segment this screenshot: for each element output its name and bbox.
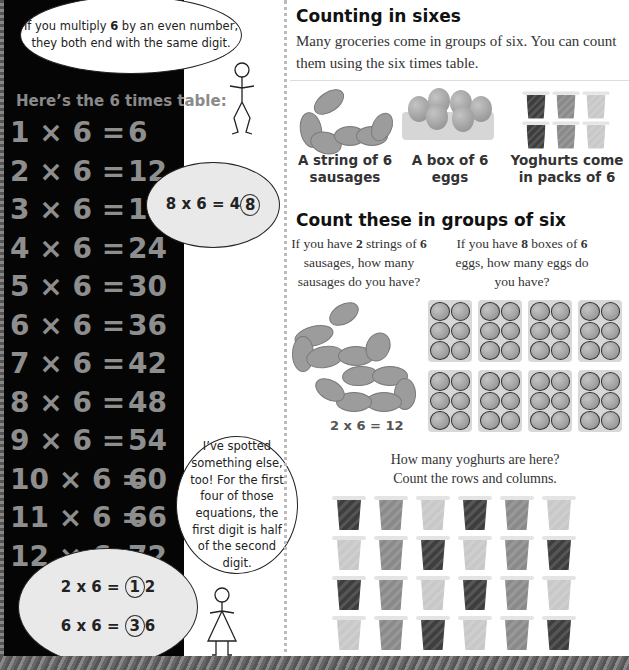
egg-icon xyxy=(601,322,621,341)
egg-icon xyxy=(530,302,550,321)
caption-sausages: A string of 6 sausages xyxy=(290,152,400,186)
times-table-title: Here’s the 6 times table: xyxy=(16,92,227,110)
yoghurt-icon xyxy=(419,536,447,572)
egg-icon xyxy=(430,372,450,391)
q-text: strings of xyxy=(363,236,420,251)
egg-icon xyxy=(580,392,600,411)
egg-icon xyxy=(451,302,471,321)
egg-icon xyxy=(601,302,621,321)
egg-icon xyxy=(501,372,521,391)
yoghurt-icon xyxy=(461,496,489,532)
egg-icon xyxy=(551,341,571,360)
egg-icon xyxy=(551,302,571,321)
egg-carton xyxy=(428,300,472,362)
example-eq: 8 x 6 = 4 xyxy=(166,194,240,216)
yoghurt-icon xyxy=(503,616,531,652)
egg-icon xyxy=(530,372,550,391)
egg-icon xyxy=(430,302,450,321)
times-table-row: 7 × 6 =42 xyxy=(10,347,182,383)
half-example-2: 6 x 6 = 36 xyxy=(61,615,155,638)
bubble-text-a: If you multiply xyxy=(24,19,110,33)
egg-icon xyxy=(530,392,550,411)
yoghurt-question-line1: How many yoghurts are here? xyxy=(330,450,620,469)
times-table-row: 1 × 6 =6 xyxy=(10,116,182,152)
times-table-row: 8 × 6 =48 xyxy=(10,386,182,422)
eq-text: 6 x 6 = xyxy=(61,617,125,635)
half-examples-bubble: 2 x 6 = 12 6 x 6 = 36 xyxy=(18,548,198,666)
egg-icon xyxy=(480,322,500,341)
question-eggs: If you have 8 boxes of 6 eggs, how many … xyxy=(452,234,592,291)
egg-icon xyxy=(580,322,600,341)
bubble-text-bold: 6 xyxy=(110,19,118,33)
egg-icon xyxy=(451,411,471,430)
yoghurt-icon xyxy=(545,616,573,652)
egg-icon xyxy=(580,302,600,321)
egg-icon xyxy=(501,322,521,341)
q-bold: 8 xyxy=(521,236,528,251)
speech-bubble-even-rule: If you multiply 6 by an even number, the… xyxy=(20,0,242,74)
egg-icon xyxy=(580,372,600,391)
row-rhs: 36 xyxy=(122,309,182,345)
yoghurt-icon xyxy=(335,616,363,652)
yoghurt-icon xyxy=(555,122,577,151)
yoghurt-icon xyxy=(585,92,607,121)
times-table-row: 4 × 6 =24 xyxy=(10,232,182,268)
times-table-row: 10 × 6 =60 xyxy=(10,463,182,499)
egg-icon xyxy=(451,341,471,360)
caption-yoghurts: Yoghurts come in packs of 6 xyxy=(505,152,629,186)
caption-eggs: A box of 6 eggs xyxy=(400,152,500,186)
yoghurt-icon xyxy=(461,576,489,612)
egg-carton xyxy=(478,370,522,432)
row-lhs: 7 × 6 = xyxy=(10,347,122,383)
yoghurt-icon xyxy=(377,536,405,572)
row-rhs: 66 xyxy=(122,501,182,537)
yoghurt-icon xyxy=(335,536,363,572)
heading-counting-in-sixes: Counting in sixes xyxy=(296,6,461,26)
egg-icon xyxy=(430,392,450,411)
yoghurt-icon xyxy=(545,496,573,532)
egg-icon xyxy=(480,372,500,391)
egg-icon xyxy=(451,372,471,391)
egg-icon xyxy=(580,411,600,430)
egg-carton xyxy=(578,370,622,432)
yoghurt-icon xyxy=(419,616,447,652)
egg-icon xyxy=(530,341,550,360)
speech-bubble-half-rule: I’ve spotted something else, too! For th… xyxy=(176,436,298,574)
yoghurt-icon xyxy=(335,496,363,532)
eq-text: 6 xyxy=(145,617,155,635)
yoghurt-icon xyxy=(503,496,531,532)
yoghurt-icon xyxy=(525,92,547,121)
example-bubble-8x6: 8 x 6 = 48 xyxy=(146,162,280,248)
yoghurt-icon xyxy=(461,536,489,572)
yoghurt-icon xyxy=(419,496,447,532)
egg-icon xyxy=(501,302,521,321)
yoghurt-icon xyxy=(545,576,573,612)
question-sausages: If you have 2 strings of 6 sausages, how… xyxy=(290,234,428,291)
row-rhs: 48 xyxy=(122,386,182,422)
times-table-row: 9 × 6 =54 xyxy=(10,424,182,460)
row-rhs: 30 xyxy=(122,270,182,306)
section-divider xyxy=(290,80,629,81)
row-lhs: 11 × 6 = xyxy=(10,501,122,537)
q-text: eggs, how many eggs do you have? xyxy=(455,255,588,289)
egg-icon xyxy=(451,392,471,411)
q-text: If you have xyxy=(291,236,356,251)
egg-icon xyxy=(430,411,450,430)
egg-icon xyxy=(601,341,621,360)
yoghurt-icon xyxy=(419,576,447,612)
egg-icon xyxy=(501,411,521,430)
yoghurt-icon xyxy=(585,122,607,151)
egg-carton xyxy=(578,300,622,362)
egg-icon xyxy=(551,411,571,430)
row-rhs: 42 xyxy=(122,347,182,383)
yoghurt-icon xyxy=(377,496,405,532)
row-lhs: 3 × 6 = xyxy=(10,193,122,229)
egg-icon xyxy=(580,341,600,360)
row-lhs: 8 × 6 = xyxy=(10,386,122,422)
yoghurt-icon xyxy=(545,536,573,572)
row-lhs: 1 × 6 = xyxy=(10,116,122,152)
yoghurt-icon xyxy=(503,536,531,572)
intro-text: Many groceries come in groups of six. Yo… xyxy=(296,30,626,74)
egg-icon xyxy=(501,341,521,360)
yoghurt-icon xyxy=(335,576,363,612)
